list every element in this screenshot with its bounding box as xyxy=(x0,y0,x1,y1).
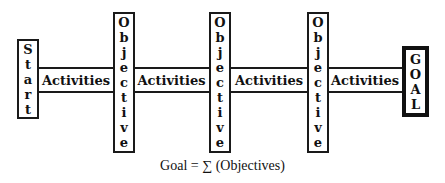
letter: O xyxy=(410,67,421,82)
objective-label: Objective xyxy=(312,15,323,150)
letter: c xyxy=(120,75,128,90)
letter: G xyxy=(410,52,421,67)
letter: t xyxy=(25,57,31,72)
objective-box-3: Objective xyxy=(307,12,329,153)
letter: r xyxy=(25,87,32,102)
letter: e xyxy=(120,135,128,150)
activities-band-1: Activities xyxy=(39,67,113,93)
letter: c xyxy=(216,75,224,90)
goal-label: GOAL xyxy=(410,52,421,112)
letter: j xyxy=(316,45,321,60)
goal-formula: Goal = ∑ (Objectives) xyxy=(0,158,445,174)
objective-box-1: Objective xyxy=(113,12,135,153)
letter: e xyxy=(120,60,128,75)
letter: A xyxy=(410,82,420,97)
activities-label: Activities xyxy=(235,73,303,88)
letter: O xyxy=(312,15,323,30)
objective-box-2: Objective xyxy=(209,12,231,153)
letter: e xyxy=(216,60,224,75)
objective-label: Objective xyxy=(214,15,225,150)
letter: O xyxy=(118,15,129,30)
letter: t xyxy=(217,90,223,105)
letter: t xyxy=(315,90,321,105)
activities-label: Activities xyxy=(138,73,206,88)
letter: b xyxy=(215,30,224,45)
start-label: Start xyxy=(23,42,32,117)
letter: t xyxy=(25,102,31,117)
letter: c xyxy=(314,75,322,90)
letter: v xyxy=(120,120,128,135)
activities-label: Activities xyxy=(331,73,399,88)
letter: O xyxy=(214,15,225,30)
letter: L xyxy=(411,97,420,112)
letter: e xyxy=(216,135,224,150)
letter: b xyxy=(119,30,128,45)
letter: v xyxy=(216,120,224,135)
letter: j xyxy=(218,45,223,60)
activities-band-2: Activities xyxy=(134,67,209,93)
letter: t xyxy=(121,90,127,105)
letter: j xyxy=(122,45,127,60)
activities-label: Activities xyxy=(42,73,110,88)
letter: i xyxy=(316,105,321,120)
letter: a xyxy=(24,72,32,87)
letter: v xyxy=(314,120,322,135)
objective-label: Objective xyxy=(118,15,129,150)
letter: e xyxy=(314,135,322,150)
letter: S xyxy=(23,42,32,57)
activities-band-4: Activities xyxy=(328,67,402,93)
letter: i xyxy=(122,105,127,120)
start-box: Start xyxy=(17,39,39,119)
letter: b xyxy=(313,30,322,45)
letter: i xyxy=(218,105,223,120)
activities-band-3: Activities xyxy=(231,67,307,93)
goal-box: GOAL xyxy=(402,46,429,117)
letter: e xyxy=(314,60,322,75)
